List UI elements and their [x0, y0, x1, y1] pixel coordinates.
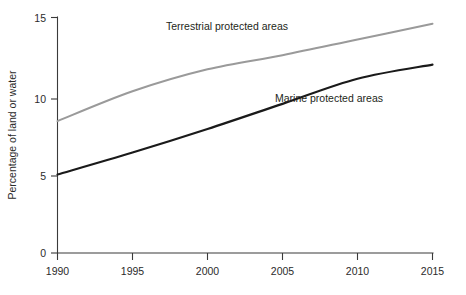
line-chart: 15 10 5 0 1990 1995 2000 2005 2010 2015 …: [0, 0, 466, 295]
series-line-terrestrial: [58, 24, 433, 121]
y-axis-ticks: [51, 18, 58, 254]
x-tick-label-2010: 2010: [346, 265, 370, 277]
y-tick-label-0: 0: [40, 247, 46, 259]
y-tick-label-10: 10: [34, 93, 46, 105]
y-tick-label-5: 5: [40, 170, 46, 182]
x-tick-label-2015: 2015: [421, 265, 445, 277]
series-label-marine: Marine protected areas: [275, 92, 383, 104]
x-tick-label-1990: 1990: [46, 265, 70, 277]
x-axis-ticks: [58, 253, 433, 260]
chart-container: 15 10 5 0 1990 1995 2000 2005 2010 2015 …: [0, 0, 466, 295]
series-line-marine: [58, 65, 433, 175]
series-label-terrestrial: Terrestrial protected areas: [166, 20, 288, 32]
x-tick-label-2000: 2000: [196, 265, 220, 277]
y-tick-label-15: 15: [34, 12, 46, 24]
x-tick-label-1995: 1995: [121, 265, 145, 277]
y-axis-title: Percentage of land or water: [6, 70, 18, 199]
x-tick-label-2005: 2005: [271, 265, 295, 277]
